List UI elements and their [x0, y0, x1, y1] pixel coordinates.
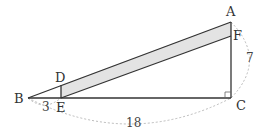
- shaded-region-daef: [61, 22, 231, 98]
- label-c: C: [236, 98, 246, 113]
- label-d: D: [55, 70, 65, 85]
- right-angle-icon: [225, 92, 231, 98]
- measure-be: 3: [42, 100, 50, 114]
- segment-ba: [28, 22, 231, 98]
- label-a: A: [225, 4, 236, 19]
- geometry-diagram: A B C D E F 3 18 7: [0, 0, 268, 133]
- segment-ef: [61, 36, 231, 98]
- label-e: E: [56, 100, 66, 115]
- measure-ac: 7: [246, 51, 254, 65]
- label-f: F: [233, 28, 242, 43]
- measure-bc: 18: [126, 116, 141, 130]
- label-b: B: [14, 91, 24, 106]
